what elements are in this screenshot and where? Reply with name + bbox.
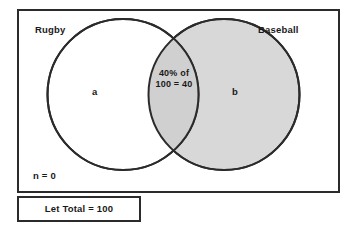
venn-diagram-figure: Rugby Baseball a b 40% of 100 = 40 n = 0…	[0, 0, 360, 231]
intersection-label-line1: 40% of	[148, 68, 200, 79]
region-label-b: b	[232, 86, 238, 98]
region-label-a: a	[92, 86, 97, 98]
set-label-rugby: Rugby	[35, 24, 66, 36]
intersection-label: 40% of 100 = 40	[148, 68, 200, 91]
intersection-label-line2: 100 = 40	[148, 79, 200, 90]
set-label-baseball: Baseball	[258, 24, 299, 36]
total-caption-label: Let Total = 100	[45, 203, 114, 215]
total-caption-box: Let Total = 100	[17, 196, 141, 222]
outside-region-count-label: n = 0	[33, 170, 56, 182]
